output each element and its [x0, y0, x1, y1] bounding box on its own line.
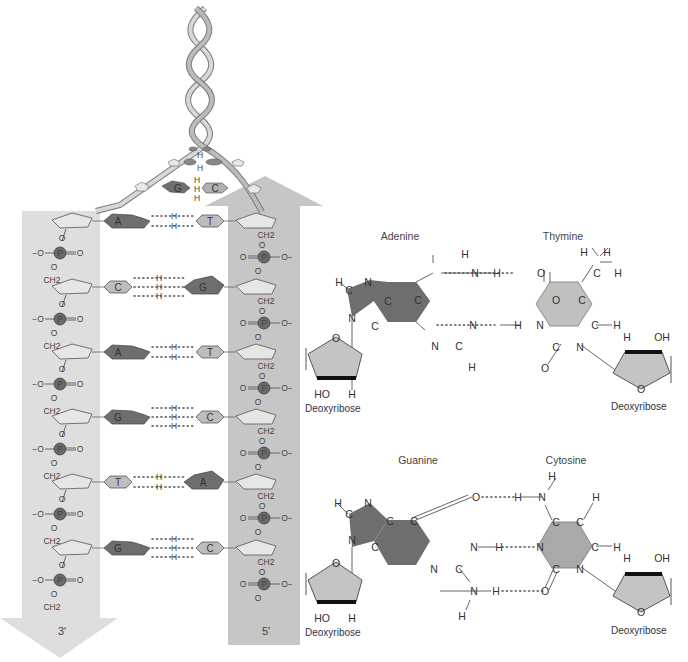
svg-text:O: O — [240, 448, 247, 458]
svg-text:O−: O− — [281, 252, 293, 262]
svg-text:H: H — [623, 331, 631, 343]
svg-text:O: O — [255, 332, 262, 342]
svg-text:O: O — [259, 567, 266, 577]
svg-text:N: N — [348, 312, 356, 324]
svg-text:C: C — [211, 183, 218, 194]
svg-text:H: H — [614, 267, 622, 279]
svg-text:P: P — [57, 248, 63, 258]
svg-text:N: N — [536, 319, 544, 331]
svg-text:H: H — [493, 267, 501, 279]
svg-text:−O: −O — [32, 248, 44, 258]
helix-model: G C H H H H H ATHHOP−OOOCH2CH2OPOO−OCGHH… — [0, 8, 323, 658]
svg-text:O−: O− — [281, 579, 293, 589]
svg-text:O: O — [240, 318, 247, 328]
svg-text:O: O — [240, 252, 247, 262]
svg-text:H: H — [171, 342, 177, 352]
svg-text:O: O — [59, 429, 66, 439]
svg-text:N: N — [576, 563, 584, 575]
svg-text:HO: HO — [314, 388, 330, 400]
svg-text:P: P — [261, 579, 267, 589]
svg-text:O: O — [240, 513, 247, 523]
svg-text:O: O — [240, 383, 247, 393]
svg-text:O: O — [77, 314, 84, 324]
svg-text:O: O — [259, 240, 266, 250]
adenine-title: Adenine — [381, 230, 420, 242]
svg-text:T: T — [207, 347, 213, 358]
svg-text:CH2: CH2 — [257, 361, 274, 371]
svg-text:H: H — [171, 221, 177, 231]
svg-text:A: A — [115, 347, 122, 358]
svg-text:H: H — [613, 319, 621, 331]
svg-text:Deoxyribose: Deoxyribose — [611, 625, 667, 636]
svg-text:H: H — [613, 541, 621, 553]
svg-text:H: H — [580, 246, 588, 258]
svg-text:O: O — [259, 501, 266, 511]
svg-text:H: H — [603, 246, 611, 258]
left-base-G — [104, 541, 150, 555]
svg-text:N: N — [469, 319, 477, 331]
svg-text:P: P — [261, 448, 267, 458]
svg-text:A: A — [200, 477, 207, 488]
svg-text:N: N — [364, 276, 372, 288]
svg-text:P: P — [261, 513, 267, 523]
svg-text:H: H — [592, 491, 600, 503]
svg-text:C: C — [576, 516, 584, 528]
svg-text:N: N — [470, 585, 478, 597]
svg-text:C: C — [455, 340, 463, 352]
svg-text:C: C — [206, 543, 213, 554]
svg-text:CH2: CH2 — [257, 557, 274, 567]
svg-text:N: N — [536, 541, 544, 553]
svg-text:OH: OH — [654, 552, 670, 564]
svg-text:H: H — [514, 319, 522, 331]
svg-text:P: P — [57, 509, 63, 519]
svg-text:G: G — [114, 412, 122, 423]
svg-text:N: N — [431, 340, 439, 352]
svg-text:O: O — [59, 364, 66, 374]
svg-text:C: C — [206, 412, 213, 423]
svg-text:H: H — [171, 211, 177, 221]
svg-text:O: O — [51, 523, 58, 533]
svg-text:O: O — [255, 527, 262, 537]
svg-text:O−: O− — [281, 318, 293, 328]
svg-text:O: O — [77, 248, 84, 258]
svg-text:C: C — [578, 294, 586, 306]
svg-text:H: H — [458, 610, 466, 622]
svg-text:P: P — [261, 383, 267, 393]
svg-text:CH2: CH2 — [257, 296, 274, 306]
svg-text:N: N — [348, 534, 356, 546]
svg-text:P: P — [261, 318, 267, 328]
svg-text:O: O — [637, 606, 645, 618]
svg-text:O: O — [59, 233, 66, 243]
svg-text:O: O — [259, 306, 266, 316]
svg-text:O: O — [59, 299, 66, 309]
svg-text:O: O — [77, 575, 84, 585]
svg-text:H: H — [495, 541, 503, 553]
svg-text:O: O — [332, 332, 340, 344]
svg-text:C: C — [552, 341, 560, 353]
svg-text:H: H — [171, 352, 177, 362]
svg-text:H: H — [492, 585, 500, 597]
svg-text:N: N — [576, 341, 584, 353]
svg-text:T: T — [115, 477, 121, 488]
svg-text:O: O — [541, 585, 549, 597]
svg-text:HO: HO — [314, 612, 330, 624]
svg-text:O: O — [255, 397, 262, 407]
svg-text:H: H — [623, 552, 631, 564]
svg-text:C: C — [345, 284, 353, 296]
svg-text:Deoxyribose: Deoxyribose — [305, 627, 361, 638]
svg-text:C: C — [455, 563, 463, 575]
svg-text:O: O — [255, 593, 262, 603]
svg-text:O: O — [77, 379, 84, 389]
svg-text:O: O — [537, 267, 545, 279]
svg-text:P: P — [57, 314, 63, 324]
svg-text:C: C — [345, 508, 353, 520]
svg-text:H: H — [171, 421, 177, 431]
svg-text:H: H — [156, 472, 162, 482]
svg-text:CH2: CH2 — [257, 230, 274, 240]
svg-text:C: C — [552, 516, 560, 528]
adenine-deoxyribose: O HO H Deoxyribose — [305, 332, 362, 414]
svg-text:H: H — [156, 291, 162, 301]
svg-text:H: H — [461, 248, 469, 260]
svg-text:H: H — [514, 491, 522, 503]
thymine-title: Thymine — [543, 230, 583, 242]
